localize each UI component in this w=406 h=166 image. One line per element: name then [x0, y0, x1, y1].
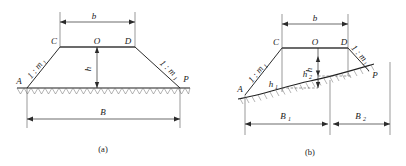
caption-panel-b: (b)	[305, 147, 315, 157]
arrowhead-b-right-b	[342, 22, 348, 27]
arrowhead-B1-left-b	[245, 122, 251, 127]
arrowhead-B1-right-b	[322, 122, 328, 127]
label-point-D-b: D	[340, 37, 348, 47]
label-height-left-sub-b: 1	[275, 84, 278, 90]
label-base-right-sub-b: 2	[363, 116, 366, 122]
label-height-left-text-b: h	[269, 79, 274, 89]
arrowhead-h-top-b	[316, 56, 320, 62]
arrowhead-h2-b	[316, 71, 320, 77]
label-crest-width-b: b	[313, 13, 318, 23]
label-base-right-b: B 2	[355, 111, 366, 122]
label-point-C-b: C	[273, 37, 280, 47]
arrowhead-B2-left-b	[333, 122, 339, 127]
label-slope-left-b: 1 : m 1	[246, 60, 269, 85]
label-slope-right-b: 1 : m 1	[349, 43, 372, 67]
label-height-right-sub-b: 2	[309, 74, 312, 80]
label-slope-left-sub-b: 1	[262, 63, 269, 69]
label-base-left-b: B 1	[280, 111, 291, 122]
label-point-P-b: P	[371, 70, 378, 80]
label-base-left-text-b: B	[280, 111, 286, 121]
label-point-O-b: O	[312, 37, 319, 47]
label-base-right-text-b: B	[355, 111, 361, 121]
panel-b-diagram: b C O D A P 1 : m 1 1 : m 1 h h 1 h 2 B …	[0, 0, 406, 166]
arrowhead-B2-right-b	[384, 122, 390, 127]
arrowhead-b-left-b	[282, 22, 288, 27]
label-height-left-b: h 1	[269, 79, 278, 90]
figure-root: b C O D A P 1 : m 1 1 : m 1 h B (a)	[0, 0, 406, 166]
label-point-A-b: A	[236, 84, 243, 94]
arrowhead-h-bottom-b	[316, 82, 320, 88]
label-base-left-sub-b: 1	[288, 116, 291, 122]
label-height-right-text-b: h	[303, 69, 308, 79]
